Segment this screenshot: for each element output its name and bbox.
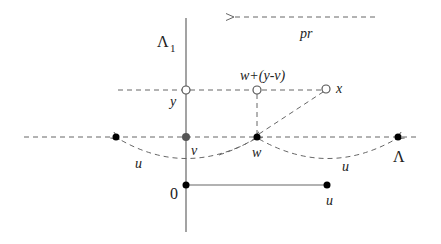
v-label: v — [191, 143, 198, 158]
arc-w-to-lambda — [259, 139, 396, 159]
x-label: x — [335, 81, 343, 96]
arc-w-left-in — [219, 139, 254, 155]
point-w — [254, 134, 261, 141]
u-left-label: u — [135, 156, 142, 171]
pr-label: pr — [299, 26, 313, 41]
u-right-label: u — [342, 159, 349, 174]
w-to-x-dashed — [259, 92, 323, 134]
point-lambda — [395, 134, 402, 141]
point-v — [182, 133, 190, 141]
point-x-open — [322, 85, 330, 93]
zero-label: 0 — [170, 185, 178, 202]
point-zero — [183, 182, 190, 189]
y-label: y — [168, 94, 177, 109]
point-u — [324, 182, 331, 189]
point-left — [113, 134, 120, 141]
lambda1-subscript: 1 — [170, 42, 176, 54]
lattice-diagram: pr Λ 1 u u y w+(y-v) x v w Λ 0 u — [0, 0, 441, 244]
u-bottom-label: u — [326, 193, 333, 208]
point-y-open — [182, 86, 190, 94]
w-label: w — [252, 145, 262, 160]
w-plus-label: w+(y-v) — [240, 68, 286, 84]
lambda1-label: Λ — [157, 33, 169, 50]
lambda-label: Λ — [393, 148, 405, 165]
point-wplus-open — [253, 86, 261, 94]
